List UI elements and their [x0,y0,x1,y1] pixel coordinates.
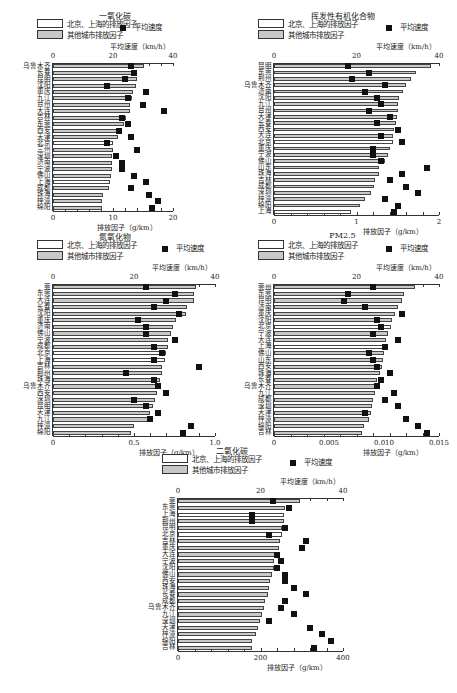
bottom-tick [161,208,162,211]
top-tick-label: 0 [51,273,55,281]
speed-marker [266,532,272,538]
bar [274,404,372,408]
speed-marker [341,298,347,304]
bar [178,599,265,603]
bar [53,351,166,355]
legend-swatch-gray [258,30,284,39]
bar [53,174,111,178]
bottom-tick [439,433,440,436]
speed-marker [143,331,149,337]
speed-marker [143,284,149,290]
bar [274,424,364,428]
bar [274,115,397,119]
speed-marker [104,83,110,89]
bar [53,96,132,100]
bar [53,417,149,421]
speed-marker [134,147,140,153]
bar [178,639,252,643]
bar [274,338,386,342]
speed-marker [378,158,384,164]
speed-marker [270,498,276,504]
bar [53,371,162,375]
top-tick [161,63,162,66]
bar [274,64,431,68]
speed-marker [374,95,380,101]
bar [53,312,186,316]
top-tick [327,498,328,501]
x-axis-label: 排放因子（g/km） [267,662,327,672]
speed-marker [370,284,376,290]
speed-marker [374,317,380,323]
plot-area: 0204000.51.0莞东莞大连长春沈阳重庆济南佛山宁波成都北京上海吉林荆州珠… [52,284,215,436]
legend-label-other: 其他城市排放因子 [67,250,123,261]
top-tick-label: 0 [176,487,180,495]
speed-marker [274,565,280,571]
bottom-tick [113,208,114,211]
speed-marker [151,377,157,383]
bottom-tick [150,433,151,436]
bar [274,159,385,163]
bar [178,632,256,636]
speed-marker [291,611,297,617]
bottom-tick-label: 200 [254,654,267,662]
bottom-tick [166,433,167,436]
bar [274,140,393,144]
bar [178,506,285,510]
speed-axis-title: 平均速度（km/h） [110,41,170,51]
city-label: 绵阳 [37,429,51,436]
speed-marker [387,114,393,120]
bar [178,646,252,650]
speed-marker [159,350,165,356]
speed-marker [382,344,388,350]
top-tick [215,284,216,287]
speed-marker [140,102,146,108]
legend-item-speed: 平均速度 [120,21,162,32]
bar [274,109,398,113]
speed-marker [116,128,122,134]
chart-panel-co: 一氧化碳北京、上海的排放因子其他城市排放因子平均速度平均速度（km/h）0204… [0,0,230,225]
speed-marker [282,525,288,531]
bottom-tick [137,208,138,211]
speed-marker [378,324,384,330]
speed-marker [374,383,380,389]
legend-swatch-gray [258,251,284,260]
speed-marker [155,198,161,204]
bottom-tick [199,433,200,436]
bottom-tick-label: 400 [336,654,349,662]
top-tick [439,63,440,66]
bottom-tick [327,648,328,651]
speed-marker [125,95,131,101]
speed-marker-icon [120,25,126,31]
bottom-tick [215,433,216,436]
speed-marker [291,585,297,591]
speed-marker [128,134,134,140]
legend-item-other: 其他城市排放因子 [162,465,367,476]
legend-swatch-white [37,19,63,28]
speed-marker [328,638,334,644]
speed-marker [382,82,388,88]
legend-swatch-white [258,19,284,28]
speed-marker [131,70,137,76]
legend-item-other: 其他城市排放因子 [37,251,239,262]
legend-label-speed: 平均速度 [176,244,204,253]
plot-area: 0204001020乌鲁木齐长春昆明沈阳重庆九江台州大连吉林东莞西安天津北京兰州… [52,63,173,211]
bar [53,199,102,203]
bottom-tick [125,208,126,211]
bottom-tick-label: 0 [51,439,55,447]
speed-marker [125,121,131,127]
speed-marker [395,127,401,133]
legend-item-other: 其他城市排放因子 [37,30,197,41]
speed-marker [278,558,284,564]
legend-label-other: 其他城市排放因子 [288,250,344,261]
speed-marker [151,304,157,310]
speed-marker [123,370,129,376]
bar [53,318,176,322]
speed-marker-icon [290,460,296,466]
speed-marker [143,403,149,409]
bar [274,371,380,375]
bar [274,345,386,349]
legend-label-speed: 平均速度 [134,23,162,32]
bar [274,285,415,289]
speed-marker [378,377,384,383]
bar [53,331,171,335]
